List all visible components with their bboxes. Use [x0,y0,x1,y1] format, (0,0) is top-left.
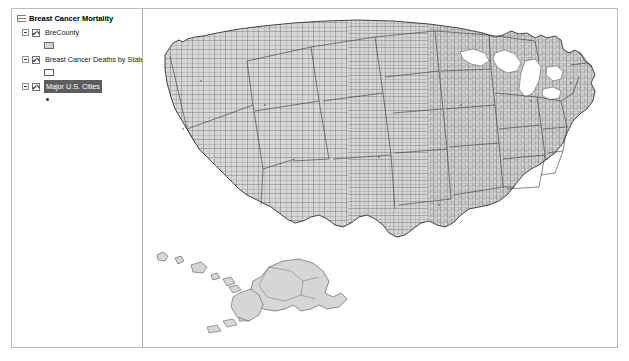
layer-label-deaths-by-state[interactable]: Breast Cancer Deaths by State [44,54,143,65]
data-frame-row[interactable]: Breast Cancer Mortality [15,13,142,24]
point-marker-swatch-icon [46,98,49,101]
layer-row-major-cities[interactable]: Major U.S. Cities [15,81,142,92]
conus-counties [143,9,617,347]
layer-tree[interactable]: Breast Cancer Mortality BreCounty Breast… [12,9,142,105]
polygon-fill-swatch-icon [44,42,54,49]
polygon-hollow-swatch-icon [44,69,54,76]
data-frame-icon [17,15,26,23]
expand-collapse-icon[interactable] [22,29,29,36]
data-frame-title: Breast Cancer Mortality [29,13,113,24]
layer-visibility-checkbox[interactable] [32,29,40,37]
layer-row-deaths-by-state[interactable]: Breast Cancer Deaths by State [15,54,142,65]
legend-symbol-row-major-cities [15,94,142,105]
alaska-inset [207,259,347,333]
expand-collapse-icon[interactable] [22,56,29,63]
table-of-contents-panel[interactable]: Breast Cancer Mortality BreCounty Breast… [12,9,143,347]
expand-collapse-icon[interactable] [22,83,29,90]
hawaii-inset [157,252,263,321]
layer-label-brecounty[interactable]: BreCounty [44,27,80,38]
application-window: Breast Cancer Mortality BreCounty Breast… [11,8,618,348]
layer-row-brecounty[interactable]: BreCounty [15,27,142,38]
layer-visibility-checkbox[interactable] [32,56,40,64]
legend-symbol-row-deaths-by-state [15,67,142,78]
layer-label-major-cities[interactable]: Major U.S. Cities [44,80,102,93]
layer-visibility-checkbox[interactable] [32,83,40,91]
united-states-county-map[interactable] [143,9,617,347]
map-svg [143,9,617,347]
legend-symbol-row-brecounty [15,40,142,51]
map-view-panel[interactable] [143,9,617,347]
